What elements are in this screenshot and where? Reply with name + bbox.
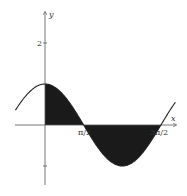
x-tick-label-3pi-2: 3π/2 [150, 128, 168, 137]
x-axis-label: x [171, 114, 176, 123]
x-tick-label-pi-2: π/2 [78, 128, 91, 137]
y-tick-label-2: 2 [37, 39, 42, 48]
y-axis-label: y [48, 10, 54, 19]
cosine-area-chart: y x 2 π/2 3π/2 [0, 0, 187, 196]
